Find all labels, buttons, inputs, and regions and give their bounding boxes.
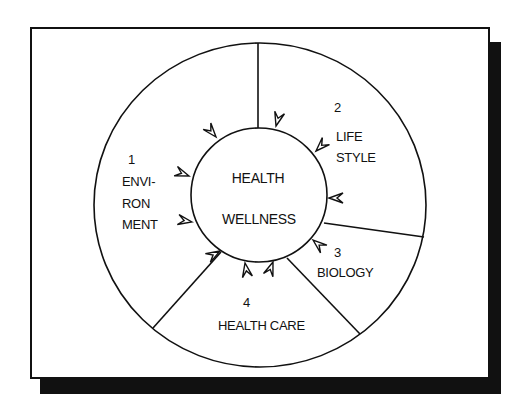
sector-1-line-1: ENVI- — [122, 174, 155, 189]
sector-4-line-1: HEALTH CARE — [218, 318, 305, 333]
sector-1-line-3: MENT — [122, 217, 158, 232]
center-label-health: HEALTH — [232, 170, 284, 186]
sector-4-number: 4 — [243, 295, 250, 310]
sector-3-number: 3 — [334, 245, 341, 260]
sector-3-line-1: BIOLOGY — [317, 265, 374, 280]
center-label-wellness: WELLNESS — [222, 211, 296, 227]
sector-1-line-2: RON — [122, 196, 150, 211]
sector-2-number: 2 — [334, 100, 341, 115]
health-wellness-diagram: HEALTH WELLNESS 1 ENVI- RON MENT 2 LIFE … — [0, 0, 531, 410]
sector-1-number: 1 — [128, 152, 135, 167]
inner-circle — [191, 128, 327, 262]
sector-2-line-1: LIFE — [336, 129, 363, 144]
sector-2-line-2: STYLE — [336, 150, 376, 165]
